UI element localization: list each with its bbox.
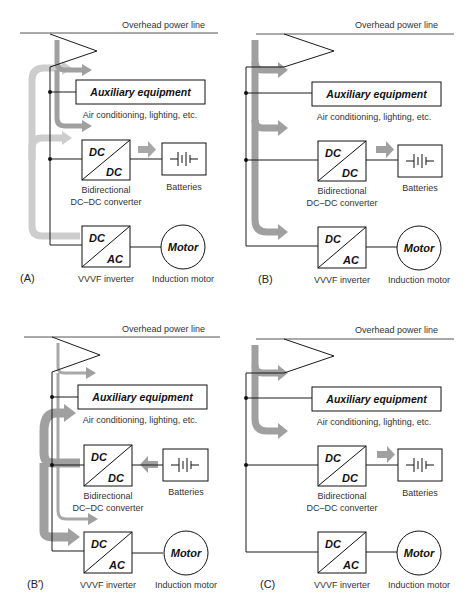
dcdc-caption-1: Bidirectional — [83, 491, 132, 501]
motor-caption: Induction motor — [155, 580, 217, 590]
batteries-box — [162, 143, 206, 175]
aux-equipment-title: Auxiliary equipment — [325, 88, 427, 100]
aux-equipment-subtitle: Air conditioning, lighting, etc. — [317, 417, 432, 427]
junction-node — [48, 90, 52, 94]
batteries-box — [398, 449, 442, 481]
batteries-label: Batteries — [402, 183, 438, 193]
inverter-bottom-label: AC — [108, 559, 126, 571]
flow-arrows — [255, 40, 278, 232]
dcdc-top-label: DC — [91, 451, 108, 463]
batteries-label: Batteries — [402, 488, 438, 498]
inverter-bottom-label: AC — [106, 253, 124, 265]
inverter-top-label: DC — [89, 232, 106, 244]
dcdc-caption-1: Bidirectional — [317, 186, 366, 196]
motor-caption: Induction motor — [388, 580, 450, 590]
aux-equipment-title: Auxiliary equipment — [89, 86, 191, 98]
overhead-line-label: Overhead power line — [122, 324, 205, 334]
inverter-top-label: DC — [325, 538, 342, 550]
motor-label: Motor — [404, 242, 435, 254]
batteries-label: Batteries — [166, 182, 202, 192]
panel-b-prime-diagram: Overhead power line Auxiliary equipment … — [0, 303, 237, 610]
panel-b-prime: Overhead power line Auxiliary equipment … — [0, 303, 237, 608]
dcdc-bottom-label: DC — [106, 166, 123, 178]
motor-caption: Induction motor — [388, 275, 450, 285]
dcdc-bottom-label: DC — [108, 472, 125, 484]
flow-arrows — [255, 345, 278, 431]
overhead-line-label: Overhead power line — [122, 20, 205, 30]
overhead-line-label: Overhead power line — [355, 325, 438, 335]
motor-label: Motor — [171, 547, 202, 559]
panel-label: (B′) — [27, 578, 44, 590]
panel-label: (B) — [258, 273, 273, 285]
dcdc-caption-2: DC–DC converter — [72, 503, 143, 513]
batteries-box — [398, 145, 442, 177]
dcdc-top-label: DC — [89, 146, 106, 158]
inverter-top-label: DC — [325, 233, 342, 245]
motor-label: Motor — [168, 241, 199, 253]
dcdc-bottom-label: DC — [342, 167, 359, 179]
inverter-caption: VVVF inverter — [80, 580, 136, 590]
dcdc-caption-2: DC–DC converter — [70, 197, 141, 207]
inverter-top-label: DC — [91, 538, 108, 550]
dcdc-caption-1: Bidirectional — [317, 491, 366, 501]
panel-b: Overhead power line Auxiliary equipment … — [238, 0, 475, 305]
panel-b-diagram: Overhead power line Auxiliary equipment … — [238, 0, 475, 305]
motor-caption: Induction motor — [152, 274, 214, 284]
dcdc-caption-1: Bidirectional — [81, 185, 130, 195]
dcdc-caption-2: DC–DC converter — [306, 503, 377, 513]
power-flow-figure: Overhead power line Auxiliary equipment … — [0, 0, 475, 610]
inverter-caption: VVVF inverter — [314, 275, 370, 285]
panel-label: (A) — [20, 272, 35, 284]
junction-node — [48, 157, 52, 161]
motor-label: Motor — [404, 547, 435, 559]
aux-equipment-subtitle: Air conditioning, lighting, etc. — [317, 112, 432, 122]
aux-equipment-title: Auxiliary equipment — [325, 393, 427, 405]
panel-c: Overhead power line Auxiliary equipment … — [238, 303, 475, 608]
aux-equipment-subtitle: Air conditioning, lighting, etc. — [83, 110, 198, 120]
batteries-label: Batteries — [168, 487, 204, 497]
overhead-line-label: Overhead power line — [355, 20, 438, 30]
panel-label: (C) — [260, 578, 275, 590]
dcdc-top-label: DC — [325, 452, 342, 464]
inverter-bottom-label: AC — [342, 559, 360, 571]
batteries-box — [163, 449, 208, 481]
inverter-bottom-label: AC — [342, 254, 360, 266]
aux-equipment-subtitle: Air conditioning, lighting, etc. — [83, 415, 198, 425]
dcdc-caption-2: DC–DC converter — [306, 198, 377, 208]
inverter-caption: VVVF inverter — [78, 274, 134, 284]
inverter-caption: VVVF inverter — [314, 580, 370, 590]
panel-a-diagram: Overhead power line Auxiliary equipment … — [0, 0, 237, 305]
panel-c-diagram: Overhead power line Auxiliary equipment … — [238, 303, 475, 610]
dcdc-bottom-label: DC — [342, 472, 359, 484]
aux-equipment-title: Auxiliary equipment — [91, 391, 193, 403]
panel-a: Overhead power line Auxiliary equipment … — [0, 0, 237, 305]
dcdc-top-label: DC — [325, 147, 342, 159]
